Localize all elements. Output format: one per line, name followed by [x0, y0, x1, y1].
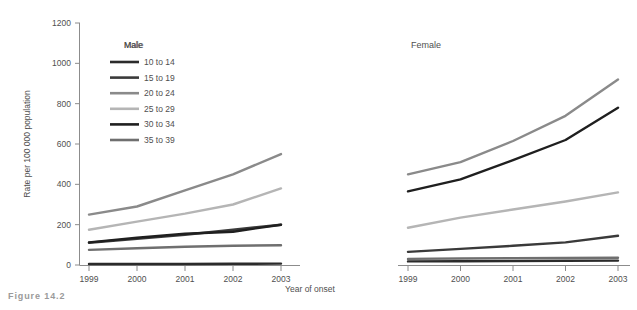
x-tick-label: 1999 [399, 274, 418, 284]
x-tick-label: 2002 [224, 274, 243, 284]
y-axis-title: Rate per 100 000 population [22, 90, 32, 198]
x-axis-title: Year of onset [285, 284, 335, 294]
series-line-15-to-19 [408, 236, 618, 252]
x-tick-label: 2000 [128, 274, 147, 284]
series-line-35-to-39 [89, 245, 281, 250]
legend-label-25-to-29: 25 to 29 [144, 104, 175, 114]
series-line-25-to-29 [408, 192, 618, 227]
y-tick-label: 400 [57, 179, 71, 189]
y-tick-label: 0 [66, 260, 71, 270]
series-line-20-to-24 [89, 154, 281, 215]
y-axis-ticks: 020040060080010001200 [52, 18, 80, 270]
series-line-10-to-14 [408, 261, 618, 262]
legend-label-30-to-34: 30 to 34 [144, 119, 175, 129]
panel-female: 19992000200120022003 Female [398, 40, 630, 284]
line-chart: 020040060080010001200 Rate per 100 000 p… [0, 0, 637, 310]
legend-label-15-to-19: 15 to 19 [144, 73, 175, 83]
x-tick-label: 2001 [176, 274, 195, 284]
x-tick-label: 1999 [80, 274, 99, 284]
male-series-lines [89, 154, 281, 264]
y-tick-label: 1000 [52, 58, 71, 68]
male-x-axis-ticks: 19992000200120022003 [80, 265, 291, 284]
series-line-35-to-39 [408, 258, 618, 259]
female-x-axis-ticks: 19992000200120022003 [399, 265, 628, 284]
x-tick-label: 2002 [556, 274, 575, 284]
legend-label-20-to-24: 20 to 24 [144, 88, 175, 98]
legend: Male 10 to 1415 to 1920 to 2425 to 2930 … [110, 40, 175, 145]
y-tick-label: 800 [57, 99, 71, 109]
figure-container: 020040060080010001200 Rate per 100 000 p… [0, 0, 637, 310]
y-tick-label: 600 [57, 139, 71, 149]
panel-title-female: Female [411, 40, 441, 50]
y-axis: 020040060080010001200 Rate per 100 000 p… [22, 18, 80, 270]
female-series-lines [408, 80, 618, 262]
x-tick-label: 2003 [609, 274, 628, 284]
legend-label-35-to-39: 35 to 39 [144, 135, 175, 145]
y-tick-label: 1200 [52, 18, 71, 28]
figure-caption: Figure 14.2 [8, 291, 65, 301]
x-tick-label: 2000 [451, 274, 470, 284]
legend-items: 10 to 1415 to 1920 to 2425 to 2930 to 34… [110, 57, 175, 145]
x-tick-label: 2003 [272, 274, 291, 284]
y-tick-label: 200 [57, 220, 71, 230]
legend-label-10-to-14: 10 to 14 [144, 57, 175, 67]
series-line-30-to-34 [408, 108, 618, 192]
x-tick-label: 2001 [504, 274, 523, 284]
legend-title: Male [124, 40, 143, 50]
